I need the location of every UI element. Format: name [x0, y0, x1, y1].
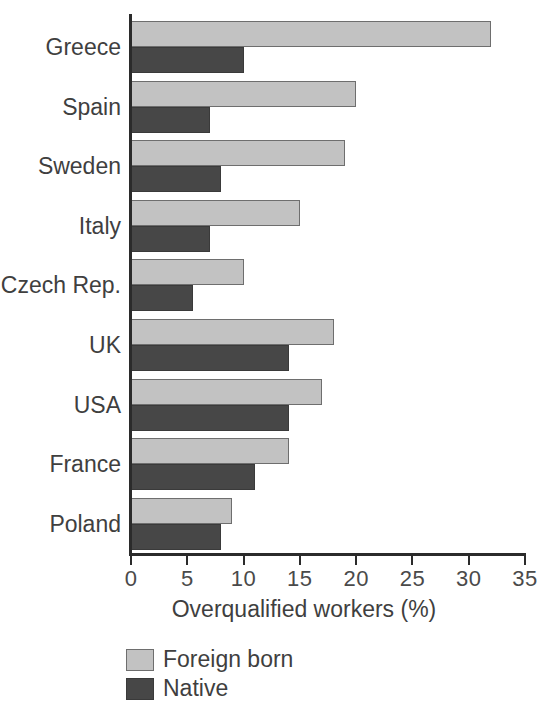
x-axis-tick [355, 556, 357, 565]
bar-foreign-born [131, 21, 491, 47]
chart-legend: Foreign bornNative [126, 645, 293, 703]
legend-swatch-icon [126, 649, 154, 671]
x-axis-tick [130, 556, 132, 565]
plot-area: GreeceSpainSwedenItalyCzech Rep.UKUSAFra… [131, 16, 525, 553]
category-label: Czech Rep. [0, 259, 121, 311]
bar-foreign-born [131, 438, 289, 464]
x-axis-tick [468, 556, 470, 565]
bar-group: Sweden [131, 140, 525, 192]
bar-foreign-born [131, 379, 322, 405]
category-label: Sweden [0, 140, 121, 192]
category-label: Poland [0, 498, 121, 550]
x-axis-tick [524, 556, 526, 565]
bar-native [131, 107, 210, 133]
bar-group: Czech Rep. [131, 259, 525, 311]
legend-swatch-icon [126, 678, 154, 700]
bar-foreign-born [131, 498, 232, 524]
x-axis-tick [299, 556, 301, 565]
y-axis-line [129, 14, 132, 555]
category-label: Spain [0, 81, 121, 133]
bar-native [131, 285, 193, 311]
category-label: Greece [0, 21, 121, 73]
bar-group: Italy [131, 200, 525, 252]
legend-label: Native [163, 675, 228, 702]
bar-group: Poland [131, 498, 525, 550]
bar-native [131, 464, 255, 490]
bar-group: France [131, 438, 525, 490]
bar-foreign-born [131, 319, 334, 345]
x-axis-tick [411, 556, 413, 565]
bar-native [131, 524, 221, 550]
category-label: UK [0, 319, 121, 371]
bar-native [131, 226, 210, 252]
x-axis-tick-label: 15 [287, 566, 312, 592]
category-label: USA [0, 379, 121, 431]
x-axis-line [129, 553, 526, 556]
x-axis-tick-label: 25 [400, 566, 425, 592]
legend-item: Foreign born [126, 645, 293, 674]
bar-group: Greece [131, 21, 525, 73]
bar-foreign-born [131, 140, 345, 166]
bar-group: USA [131, 379, 525, 431]
category-label: France [0, 438, 121, 490]
x-axis-tick [186, 556, 188, 565]
bar-chart: GreeceSpainSwedenItalyCzech Rep.UKUSAFra… [0, 0, 553, 711]
bar-group: Spain [131, 81, 525, 133]
legend-item: Native [126, 674, 293, 703]
x-axis-tick [243, 556, 245, 565]
bar-native [131, 47, 244, 73]
bar-foreign-born [131, 200, 300, 226]
category-label: Italy [0, 200, 121, 252]
bar-native [131, 345, 289, 371]
x-axis-title: Overqualified workers (%) [0, 596, 553, 623]
x-axis-tick-label: 10 [231, 566, 256, 592]
bar-group: UK [131, 319, 525, 371]
x-axis-tick-label: 0 [125, 566, 138, 592]
x-axis-tick-label: 30 [456, 566, 481, 592]
bar-native [131, 405, 289, 431]
legend-label: Foreign born [163, 646, 293, 673]
bar-foreign-born [131, 259, 244, 285]
bar-native [131, 166, 221, 192]
bar-foreign-born [131, 81, 356, 107]
x-axis-tick-label: 35 [512, 566, 537, 592]
x-axis-tick-label: 5 [181, 566, 194, 592]
x-axis-tick-label: 20 [343, 566, 368, 592]
